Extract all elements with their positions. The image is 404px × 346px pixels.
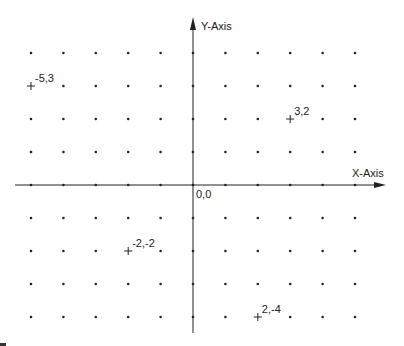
grid-dot bbox=[321, 250, 324, 253]
grid-dot bbox=[95, 151, 98, 154]
grid-dot bbox=[30, 118, 33, 121]
grid-dot bbox=[95, 283, 98, 286]
grid-dot bbox=[224, 316, 227, 319]
coordinate-plane: X-Axis Y-Axis 0,0 -5,33,2-2,-22,-4 bbox=[0, 0, 404, 346]
grid-dot bbox=[62, 217, 65, 220]
grid-dot bbox=[257, 118, 260, 121]
origin-label: 0,0 bbox=[196, 188, 211, 200]
grid-dot bbox=[354, 250, 357, 253]
grid-dot bbox=[354, 316, 357, 319]
grid-dot bbox=[354, 52, 357, 55]
grid-dot bbox=[95, 250, 98, 253]
grid-dot bbox=[95, 85, 98, 88]
grid-dot bbox=[159, 85, 162, 88]
grid-dot bbox=[224, 217, 227, 220]
grid-dot bbox=[321, 52, 324, 55]
point-label: 3,2 bbox=[294, 105, 309, 117]
grid-dot bbox=[95, 316, 98, 319]
grid-dot bbox=[224, 283, 227, 286]
grid-dot bbox=[159, 217, 162, 220]
grid-dot bbox=[257, 151, 260, 154]
grid-dot bbox=[257, 85, 260, 88]
grid-dot bbox=[62, 283, 65, 286]
grid-dot bbox=[354, 118, 357, 121]
grid-dot bbox=[127, 85, 130, 88]
grid-dot bbox=[289, 283, 292, 286]
grid-dot bbox=[321, 85, 324, 88]
grid-dot bbox=[30, 250, 33, 253]
grid-dot bbox=[289, 217, 292, 220]
grid-dot bbox=[321, 118, 324, 121]
point-label: 2,-4 bbox=[262, 303, 281, 315]
grid-dot bbox=[224, 250, 227, 253]
grid-dot bbox=[62, 316, 65, 319]
grid-dot bbox=[321, 316, 324, 319]
grid-dot bbox=[354, 283, 357, 286]
grid-dot bbox=[289, 52, 292, 55]
grid-dot bbox=[224, 52, 227, 55]
grid-dot bbox=[95, 52, 98, 55]
grid-dot bbox=[224, 151, 227, 154]
grid-dot bbox=[127, 217, 130, 220]
grid-dot bbox=[159, 151, 162, 154]
grid-dot bbox=[159, 52, 162, 55]
grid-dot bbox=[354, 151, 357, 154]
grid-dot bbox=[30, 217, 33, 220]
grid-dot bbox=[159, 118, 162, 121]
grid-dot bbox=[289, 316, 292, 319]
grid-dot bbox=[257, 217, 260, 220]
point-label: -2,-2 bbox=[132, 237, 155, 249]
grid-dot bbox=[321, 283, 324, 286]
grid-dot bbox=[127, 316, 130, 319]
grid-dot bbox=[321, 151, 324, 154]
grid-dot bbox=[289, 85, 292, 88]
grid-dot bbox=[62, 85, 65, 88]
grid-dot bbox=[159, 283, 162, 286]
grid-dot bbox=[354, 217, 357, 220]
y-axis-arrow-icon bbox=[190, 17, 196, 30]
grid-dot bbox=[30, 316, 33, 319]
plot-point: 2,-4 bbox=[254, 303, 281, 321]
x-axis-arrow-icon bbox=[374, 182, 386, 188]
plot-point: -2,-2 bbox=[124, 237, 155, 255]
grid-dot bbox=[62, 151, 65, 154]
grid-dot bbox=[159, 250, 162, 253]
grid-dot bbox=[224, 85, 227, 88]
grid-dot bbox=[95, 118, 98, 121]
grid-dot bbox=[224, 118, 227, 121]
grid-dot bbox=[127, 52, 130, 55]
grid-dot bbox=[321, 217, 324, 220]
grid-dot bbox=[30, 283, 33, 286]
grid-dot bbox=[127, 283, 130, 286]
grid-dot bbox=[257, 250, 260, 253]
grid-dot bbox=[354, 85, 357, 88]
y-axis-label: Y-Axis bbox=[201, 20, 232, 32]
grid-dot bbox=[30, 151, 33, 154]
grid-dot bbox=[257, 52, 260, 55]
plot-point: -5,3 bbox=[27, 72, 54, 90]
grid-dot bbox=[159, 316, 162, 319]
plot-point: 3,2 bbox=[286, 105, 309, 123]
point-label: -5,3 bbox=[35, 72, 54, 84]
grid-dot bbox=[62, 118, 65, 121]
grid-dot bbox=[95, 217, 98, 220]
plot-points: -5,33,2-2,-22,-4 bbox=[27, 72, 309, 321]
grid-dot bbox=[289, 151, 292, 154]
grid-dot bbox=[62, 52, 65, 55]
grid-dot bbox=[62, 250, 65, 253]
x-axis-label: X-Axis bbox=[352, 167, 384, 179]
grid-dot bbox=[127, 151, 130, 154]
grid-dot bbox=[289, 250, 292, 253]
grid-dot bbox=[127, 118, 130, 121]
grid-dot bbox=[257, 283, 260, 286]
grid-dot bbox=[30, 52, 33, 55]
